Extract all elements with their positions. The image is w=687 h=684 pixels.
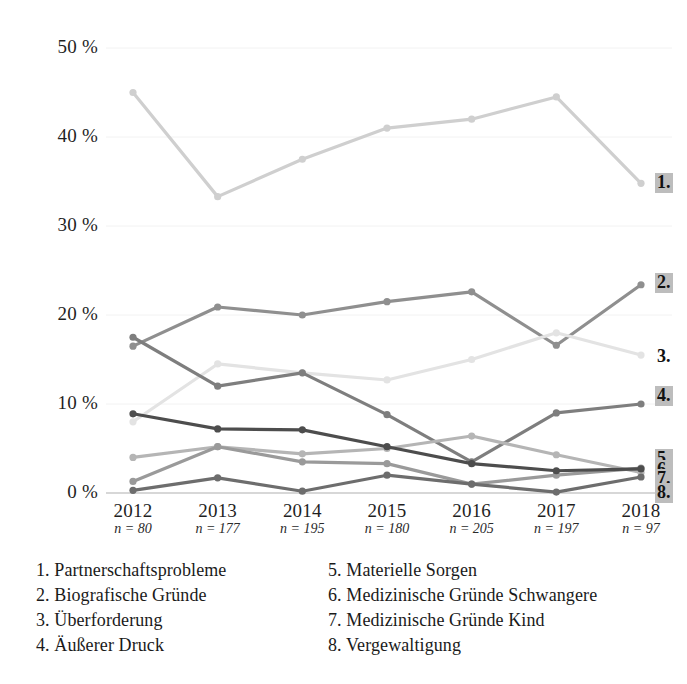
legend-item-label: Medizinische Gründe Kind [346,610,544,630]
series-end-label-1: 1. [655,173,673,193]
x-tick-sample-size: n = 180 [345,521,429,537]
data-point [468,288,475,295]
series-end-label-4: 4. [655,386,673,406]
data-point [383,376,390,383]
data-point [383,411,390,418]
y-tick-10: 10 % [28,392,98,414]
series-1 [129,89,644,200]
x-tick-sample-size: n = 97 [599,521,683,537]
legend-item-label: Medizinische Gründe Schwangere [346,585,597,605]
legend-item-number: 7. [328,610,346,630]
legend-item-number: 5. [328,560,346,580]
data-point [468,116,475,123]
data-point [637,351,644,358]
x-tick-2012: 2012n = 80 [91,500,175,537]
data-point [468,432,475,439]
data-point [383,443,390,450]
x-tick-2015: 2015n = 180 [345,500,429,537]
x-tick-2016: 2016n = 205 [430,500,514,537]
x-tick-year: 2013 [176,500,260,521]
x-tick-2017: 2017n = 197 [514,500,598,537]
data-point [299,458,306,465]
x-tick-sample-size: n = 177 [176,521,260,537]
data-point [299,450,306,457]
legend-item-label: Überforderung [54,610,162,630]
x-tick-2013: 2013n = 177 [176,500,260,537]
x-tick-2018: 2018n = 97 [599,500,683,537]
data-point [214,474,221,481]
series-line [133,93,641,197]
data-point [129,418,136,425]
line-chart: 0 %10 %20 %30 %40 %50 % 2012n = 802013n … [0,0,687,684]
x-tick-year: 2018 [599,500,683,521]
legend-column-right: 5. Materielle Sorgen6. Medizinische Grün… [328,558,678,658]
y-tick-40: 40 % [28,125,98,147]
series-end-label-2: 2. [655,273,673,293]
x-tick-sample-size: n = 197 [514,521,598,537]
data-point [214,303,221,310]
legend-item-4: 4. Äußerer Druck [36,633,336,658]
legend-item-number: 4. [36,635,54,655]
data-point [129,454,136,461]
legend-column-left: 1. Partnerschaftsprobleme2. Biografische… [36,558,336,658]
data-point [553,409,560,416]
data-point [637,400,644,407]
data-point [383,460,390,467]
legend-item-number: 3. [36,610,54,630]
x-tick-year: 2016 [430,500,514,521]
x-tick-2014: 2014n = 195 [260,500,344,537]
data-point [214,443,221,450]
data-point [129,334,136,341]
data-point [299,311,306,318]
legend-item-3: 3. Überforderung [36,608,336,633]
data-point [299,426,306,433]
data-point [637,281,644,288]
data-point [383,125,390,132]
x-tick-sample-size: n = 205 [430,521,514,537]
series-end-label-3: 3. [655,347,673,367]
data-point [553,93,560,100]
legend-item-2: 2. Biografische Gründe [36,583,336,608]
legend-item-5: 5. Materielle Sorgen [328,558,678,583]
legend-item-label: Partnerschaftsprobleme [54,560,226,580]
legend-item-label: Materielle Sorgen [346,560,477,580]
data-point [553,467,560,474]
legend-item-number: 2. [36,585,54,605]
data-point [299,488,306,495]
data-point [468,481,475,488]
data-point [214,360,221,367]
data-point [553,451,560,458]
data-point [553,342,560,349]
x-tick-year: 2017 [514,500,598,521]
data-point [637,473,644,480]
data-point [129,410,136,417]
legend-item-label: Biografische Gründe [54,585,206,605]
data-point [637,180,644,187]
legend-item-label: Vergewaltigung [346,635,461,655]
legend: 1. Partnerschaftsprobleme2. Biografische… [28,558,678,678]
data-point [214,193,221,200]
data-point [129,89,136,96]
data-point [299,156,306,163]
data-point [214,383,221,390]
data-point [214,425,221,432]
data-point [383,472,390,479]
series-end-label-8: 8. [655,483,673,503]
data-point [553,489,560,496]
data-point [129,343,136,350]
data-point [553,329,560,336]
data-point [468,460,475,467]
data-point [637,465,644,472]
data-point [129,487,136,494]
x-tick-year: 2012 [91,500,175,521]
legend-item-number: 6. [328,585,346,605]
legend-item-7: 7. Medizinische Gründe Kind [328,608,678,633]
y-tick-20: 20 % [28,303,98,325]
legend-item-8: 8. Vergewaltigung [328,633,678,658]
x-tick-sample-size: n = 80 [91,521,175,537]
data-point [129,478,136,485]
data-point [299,369,306,376]
legend-item-label: Äußerer Druck [54,635,164,655]
legend-item-number: 1. [36,560,54,580]
data-point [468,356,475,363]
